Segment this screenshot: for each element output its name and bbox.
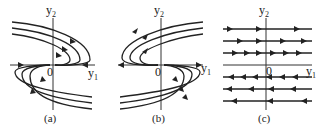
origin-label: 0	[266, 64, 272, 78]
origin-label: 0	[47, 65, 53, 79]
panel-c: y2 y1 0 (c)	[223, 3, 316, 125]
panel-caption: (b)	[152, 112, 165, 125]
y1-axis-label: y1	[201, 61, 211, 77]
y1-axis-label: y1	[306, 64, 316, 80]
y2-axis-label: y2	[259, 3, 269, 19]
panel-caption: (c)	[258, 112, 271, 125]
panel-b: y2 y1 0 (b)	[118, 3, 211, 125]
y2-axis-label: y2	[154, 3, 164, 19]
panel-caption: (a)	[44, 112, 57, 125]
phase-portraits: y2 y1 0 (a) y2 y1 0 (b)	[0, 0, 322, 134]
y1-axis-label: y1	[88, 66, 98, 82]
origin-label: 0	[155, 65, 161, 79]
arrow-icon	[118, 62, 124, 68]
y2-axis-label: y2	[46, 3, 56, 19]
panel-a: y2 y1 0 (a)	[10, 3, 98, 125]
